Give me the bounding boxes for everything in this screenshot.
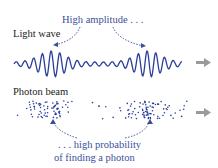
annotation-arrow-left — [55, 27, 80, 45]
diagram-graphics — [0, 0, 218, 168]
annotation-arrow-bottom-right — [125, 122, 149, 138]
wave-direction-arrow — [196, 58, 211, 67]
annotation-arrow-bottom-left — [53, 122, 77, 138]
beam-direction-arrow — [196, 108, 211, 117]
photon-dots — [17, 100, 188, 119]
light-wave — [14, 51, 182, 77]
annotation-arrow-right — [113, 27, 143, 46]
